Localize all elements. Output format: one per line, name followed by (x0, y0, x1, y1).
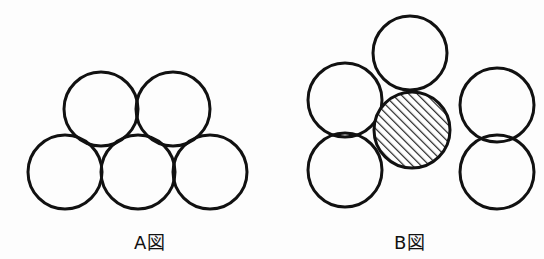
circle (64, 72, 138, 146)
hatched-center-circle (374, 92, 450, 168)
circle-packing-figures (0, 0, 544, 259)
circle (460, 135, 534, 209)
figure-a-circles (28, 72, 247, 209)
circle (173, 135, 247, 209)
circle (460, 68, 534, 142)
circle (136, 72, 210, 146)
circle (308, 63, 382, 137)
circle (373, 16, 447, 90)
circle (308, 133, 382, 207)
figure-a-label: A図 (134, 228, 166, 254)
figure-b-label: B図 (394, 228, 426, 254)
diagram-canvas: A図 B図 (0, 0, 544, 259)
figure-b-circles (308, 16, 534, 209)
